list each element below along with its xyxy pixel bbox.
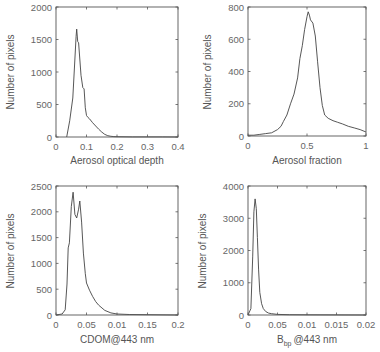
y-tick-label: 1000 (223, 277, 244, 288)
y-tick-label: 0 (239, 310, 244, 321)
x-tick-label: 0.1 (80, 141, 93, 152)
x-tick-label: 0.3 (141, 141, 154, 152)
x-label-rest: @443 nm (293, 334, 337, 345)
y-axis-label: Number of pixels (5, 34, 16, 109)
x-tick-label: 0 (245, 319, 250, 330)
histogram-figure: Aerosol optical depth Number of pixels 0… (0, 0, 380, 352)
y-tick-label: 1500 (31, 34, 52, 45)
y-tick-label: 2000 (223, 245, 244, 256)
y-tick-label: 500 (36, 99, 52, 110)
x-tick-label: 0 (245, 140, 250, 151)
x-tick-label: 0.05 (77, 319, 96, 330)
x-tick-label: 0.4 (171, 141, 184, 152)
axes-frame (248, 186, 366, 315)
y-tick-label: 200 (228, 98, 244, 109)
x-label-subscript: bp (284, 340, 292, 348)
x-tick-label: 0.01 (298, 319, 317, 330)
x-tick-label: 0 (53, 141, 58, 152)
y-tick-label: 0 (239, 131, 244, 142)
x-axis-label: Aerosol fraction (272, 155, 341, 166)
y-tick-label: 800 (228, 2, 244, 13)
x-tick-label: 0 (53, 319, 58, 330)
y-tick-label: 3000 (223, 213, 244, 224)
y-tick-label: 1500 (31, 232, 52, 243)
y-axis-label: Number of pixels (202, 34, 213, 109)
x-tick-label: 0.05 (268, 319, 287, 330)
y-tick-label: 0 (47, 310, 52, 321)
histogram-curve (248, 199, 366, 315)
x-axis-label: Bbp@443 nm (277, 334, 337, 348)
y-tick-label: 2500 (31, 181, 52, 192)
y-tick-label: 4000 (223, 181, 244, 192)
y-tick-label: 400 (228, 66, 244, 77)
panel-aerosol-optical-depth: Aerosol optical depth Number of pixels 0… (5, 2, 185, 167)
axes-frame (248, 7, 366, 136)
y-tick-label: 0 (47, 132, 52, 143)
x-axis-label: Aerosol optical depth (70, 155, 163, 166)
x-tick-label: 1 (363, 140, 368, 151)
y-tick-label: 2000 (31, 2, 52, 13)
y-tick-label: 1000 (31, 258, 52, 269)
panel-aerosol-fraction: Aerosol fraction Number of pixels 00.510… (202, 2, 369, 167)
histogram-curve (248, 12, 366, 135)
panel-bbp-443: Bbp@443 nm Number of pixels 00.050.010.0… (197, 181, 375, 349)
y-tick-label: 500 (36, 284, 52, 295)
x-tick-label: 0.2 (110, 141, 123, 152)
y-tick-label: 2000 (31, 206, 52, 217)
y-axis-label: Number of pixels (197, 213, 208, 288)
x-tick-label: 0.015 (325, 319, 349, 330)
x-tick-label: 0.02 (357, 319, 376, 330)
histogram-curve (67, 29, 178, 137)
x-tick-label: 0.01 (108, 319, 127, 330)
x-tick-label: 0.15 (138, 319, 157, 330)
histogram-curve (56, 192, 178, 315)
panel-cdom-443: CDOM@443 nm Number of pixels 00.050.010.… (5, 181, 185, 346)
x-tick-label: 0.2 (171, 319, 184, 330)
y-axis-label: Number of pixels (5, 213, 16, 288)
y-tick-label: 600 (228, 34, 244, 45)
y-tick-label: 1000 (31, 67, 52, 78)
x-axis-label: CDOM@443 nm (80, 334, 154, 345)
x-tick-label: 0.5 (300, 140, 313, 151)
